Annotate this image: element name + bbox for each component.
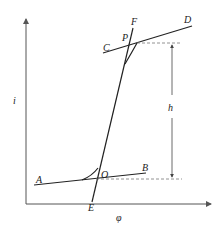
label-B: B	[142, 162, 148, 173]
label-F: F	[130, 16, 138, 27]
label-P: P	[121, 32, 128, 43]
label-D: D	[183, 14, 192, 25]
label-O: O	[101, 169, 108, 180]
dimension-h-label: h	[168, 102, 173, 113]
line-CD	[103, 26, 192, 53]
label-E: E	[87, 202, 94, 213]
tafel-intersection-diagram: i φ A B C D E F O P h	[0, 0, 224, 228]
line-AB	[34, 173, 146, 185]
label-A: A	[35, 174, 43, 185]
line-EF	[92, 28, 133, 202]
x-axis-label: φ	[116, 212, 122, 223]
y-axis-label: i	[13, 95, 16, 106]
label-C: C	[103, 42, 110, 53]
